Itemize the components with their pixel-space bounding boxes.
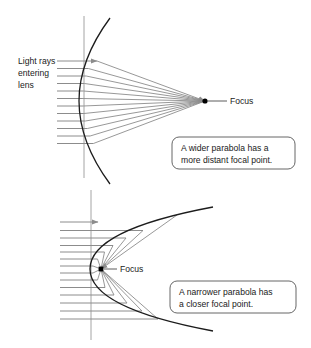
- bottom-focus-point: [99, 267, 104, 272]
- light-rays-label-line3: lens: [18, 80, 34, 90]
- top-callout-line1: A wider parabola has a: [181, 143, 269, 153]
- bottom-focus-label: Focus: [120, 264, 143, 274]
- bottom-callout-line2: a closer focal point.: [179, 299, 253, 309]
- light-rays-label-line1: Light rays: [18, 56, 55, 66]
- top-focus-label: Focus: [230, 96, 253, 106]
- top-callout: A wider parabola has a more distant foca…: [172, 137, 295, 169]
- bottom-callout: A narrower parabola has a closer focal p…: [170, 281, 296, 313]
- top-callout-line2: more distant focal point.: [181, 155, 272, 165]
- light-rays-label-line2: entering: [18, 68, 49, 78]
- parabolic-focus-figure: Focus Light rays entering lens A wider p…: [0, 0, 311, 348]
- top-focus-point: [202, 98, 207, 103]
- bottom-callout-line1: A narrower parabola has: [179, 287, 273, 297]
